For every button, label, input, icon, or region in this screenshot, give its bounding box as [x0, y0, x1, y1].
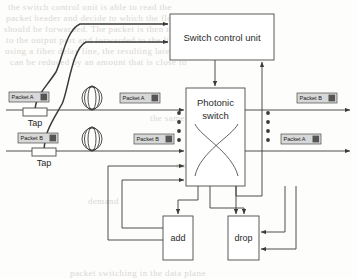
packet-tag-label: Packet A — [12, 94, 34, 100]
packet-tag-label: Packet B — [137, 136, 160, 142]
fiber-delay-line-2 — [82, 127, 102, 151]
diagram-canvas: the switch control unit is able to read … — [0, 0, 357, 279]
packet-tag-in-b: Packet B — [18, 133, 58, 143]
right-port-ellipsis — [266, 111, 270, 142]
packet-header-marker — [166, 136, 173, 143]
packet-header-marker — [41, 94, 48, 101]
packet-tag-label: Packet A — [284, 136, 306, 142]
tap-label-1: Tap — [28, 118, 43, 128]
left-port-ellipsis — [177, 111, 181, 142]
tap-box-1[interactable] — [23, 108, 47, 116]
packet-tag-label: Packet B — [21, 135, 44, 141]
packet-tag-layer: Packet APacket BPacket APacket BPacket B… — [9, 92, 337, 144]
add-box-label: add — [170, 233, 185, 243]
tap-box-2[interactable] — [32, 148, 56, 156]
drop-feedback-line-1 — [261, 186, 285, 232]
packet-tag-out-b: Packet B — [297, 93, 337, 103]
packet-header-marker — [50, 135, 57, 142]
packet-header-marker — [152, 95, 159, 102]
photonic-switch-label-line1: Photonic — [197, 97, 234, 108]
packet-header-marker — [313, 136, 320, 143]
switch-control-unit-label: Switch control unit — [183, 32, 260, 43]
packet-tag-label: Packet A — [123, 95, 145, 101]
fiber-delay-line-1 — [82, 86, 102, 110]
drop-feedback-line-2 — [261, 186, 296, 249]
packet-tag-label: Packet B — [300, 95, 323, 101]
switch-to-add-line — [178, 186, 198, 214]
packet-tag-mid-a: Packet A — [120, 93, 160, 103]
drop-box-label: drop — [234, 233, 252, 243]
packet-header-marker — [329, 95, 336, 102]
packet-tag-mid-b: Packet B — [134, 134, 174, 144]
photonic-switch-label-line2: switch — [202, 110, 228, 121]
photonic-switch-diagram: Switch control unit Photonic switch add … — [0, 0, 357, 279]
packet-tag-out-a: Packet A — [281, 134, 321, 144]
switch-to-drop-line-2 — [210, 186, 244, 214]
tap-label-2: Tap — [37, 158, 52, 168]
packet-tag-in-a: Packet A — [9, 92, 49, 102]
